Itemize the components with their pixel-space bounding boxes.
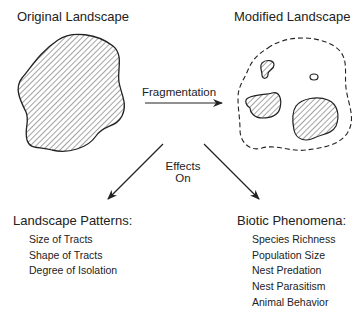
original-landscape-shape — [18, 34, 124, 151]
fragment-left — [246, 93, 281, 118]
list-item: Shape of Tracts — [29, 248, 132, 264]
list-item: Degree of Isolation — [29, 263, 132, 279]
landscape-patterns-heading: Landscape Patterns: — [13, 213, 132, 228]
landscape-patterns-section: Landscape Patterns: Size of Tracts Shape… — [13, 213, 132, 279]
effects-line-1: Effects — [160, 160, 206, 172]
modified-landscape-label: Modified Landscape — [234, 9, 350, 24]
biotic-phenomena-list: Species Richness Population Size Nest Pr… — [252, 232, 346, 311]
effects-arrow-left — [108, 144, 163, 199]
biotic-phenomena-section: Biotic Phenomena: Species Richness Popul… — [237, 213, 346, 311]
fragment-small-top — [261, 61, 274, 79]
biotic-phenomena-heading: Biotic Phenomena: — [237, 213, 346, 228]
list-item: Size of Tracts — [29, 232, 132, 248]
effects-line-2: On — [160, 172, 206, 184]
fragmentation-label: Fragmentation — [142, 86, 216, 98]
landscape-patterns-list: Size of Tracts Shape of Tracts Degree of… — [29, 232, 132, 279]
list-item: Nest Parasitism — [252, 279, 346, 295]
list-item: Species Richness — [252, 232, 346, 248]
list-item: Population Size — [252, 248, 346, 264]
effects-label: Effects On — [160, 160, 206, 184]
original-landscape-label: Original Landscape — [17, 9, 129, 24]
fragment-tiny — [310, 74, 318, 80]
fragment-right — [293, 98, 338, 140]
effects-arrow-right — [204, 144, 259, 199]
list-item: Animal Behavior — [252, 295, 346, 311]
list-item: Nest Predation — [252, 263, 346, 279]
